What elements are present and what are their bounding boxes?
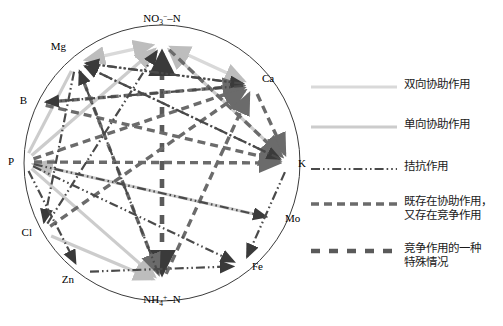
node-label-Zn: Zn (62, 273, 75, 285)
node-label-Mo: Mo (285, 212, 301, 224)
edge-P-NH4N (32, 169, 155, 277)
edge-K-Mg (85, 66, 280, 158)
edge-layer (29, 45, 285, 279)
edge-Ca-Mg (86, 63, 243, 83)
node-label-NH4N: NH4+–N (143, 293, 180, 308)
edge-NH4N-Ca (166, 94, 249, 274)
figure-root: NO3−–NMgBPClZnNH4+–NFeMoKCa 双向协助作用单向协助作用… (0, 0, 503, 326)
legend-label-bidir-synergy: 双向协助作用 (404, 78, 470, 92)
node-label-Mg: Mg (51, 40, 67, 52)
node-label-NO3N: NO3−–N (143, 12, 180, 27)
legend-item-unidir-synergy: 单向协助作用 (310, 118, 470, 134)
legend-label-both-effects: 既存在协助作用， 又存在竞争作用 (404, 195, 492, 222)
legend-swatch-both-effects (310, 197, 398, 211)
legend-swatch-unidir-synergy (310, 120, 398, 134)
legend-item-both-effects: 既存在协助作用， 又存在竞争作用 (310, 195, 492, 222)
legend-item-antagonism: 拮抗作用 (310, 160, 448, 176)
legend-swatch-special-case (310, 244, 398, 258)
edge-P-K (34, 162, 279, 163)
legend-swatch-antagonism (310, 162, 398, 176)
edge-Mg-NO3N (86, 45, 152, 60)
legend-item-special-case: 竞争作用的一种 特殊情况 (310, 242, 481, 269)
node-label-Cl: Cl (22, 226, 32, 238)
legend-swatch-bidir-synergy (310, 80, 398, 94)
nutrient-interaction-diagram: NO3−–NMgBPClZnNH4+–NFeMoKCa (0, 0, 320, 326)
node-label-Fe: Fe (252, 260, 263, 272)
legend-label-special-case: 竞争作用的一种 特殊情况 (404, 242, 481, 269)
edge-P-Fe (33, 166, 234, 261)
node-label-Ca: Ca (262, 72, 274, 84)
legend-item-bidir-synergy: 双向协助作用 (310, 78, 470, 94)
edge-P-Ca (33, 88, 243, 159)
node-label-K: K (298, 157, 306, 169)
legend-label-unidir-synergy: 单向协助作用 (404, 118, 470, 132)
node-label-B: B (20, 94, 27, 106)
legend-label-antagonism: 拮抗作用 (404, 160, 448, 174)
node-label-P: P (8, 155, 14, 167)
legend: 双向协助作用单向协助作用拮抗作用既存在协助作用， 又存在竞争作用竞争作用的一种 … (310, 60, 503, 290)
node-layer: NO3−–NMgBPClZnNH4+–NFeMoKCa (8, 12, 306, 308)
